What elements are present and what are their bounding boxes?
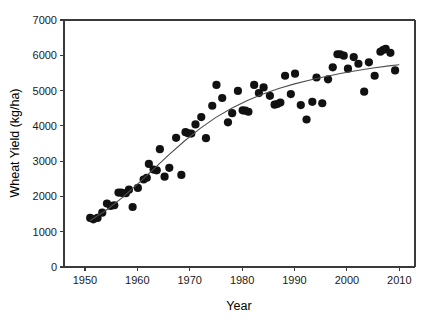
x-tick-label: 1980 <box>230 274 254 286</box>
data-point <box>281 72 289 80</box>
data-point <box>260 83 268 91</box>
trend-line <box>90 65 399 221</box>
y-tick-label: 0 <box>51 261 57 273</box>
data-point <box>276 98 284 106</box>
data-point <box>250 81 258 89</box>
wheat-yield-scatter-chart: 01000200030004000500060007000 1950196019… <box>0 0 432 322</box>
x-tick-label: 1990 <box>282 274 306 286</box>
data-point <box>156 145 164 153</box>
y-tick-label: 5000 <box>33 85 57 97</box>
data-point <box>165 164 173 172</box>
x-tick-label: 1970 <box>177 274 201 286</box>
data-point <box>391 66 399 74</box>
data-point <box>160 173 168 181</box>
y-tick-label: 7000 <box>33 14 57 26</box>
y-tick-label: 6000 <box>33 49 57 61</box>
y-axis-title: Wheat Yield (kg/ha) <box>8 88 22 197</box>
data-point <box>360 88 368 96</box>
data-point <box>386 49 394 57</box>
data-point <box>302 115 310 123</box>
x-axis-ticks: 1950196019701980199020002010 <box>73 267 412 286</box>
data-point <box>134 184 142 192</box>
data-point <box>172 134 180 142</box>
data-point <box>244 108 252 116</box>
data-point <box>218 94 226 102</box>
data-point <box>340 52 348 60</box>
y-tick-label: 2000 <box>33 190 57 202</box>
data-point <box>212 81 220 89</box>
y-tick-label: 4000 <box>33 120 57 132</box>
y-axis-ticks: 01000200030004000500060007000 <box>33 14 64 273</box>
data-point <box>191 120 199 128</box>
x-tick-label: 2010 <box>387 274 411 286</box>
data-point <box>197 113 205 121</box>
x-tick-label: 1950 <box>73 274 97 286</box>
data-point <box>354 60 362 68</box>
data-point <box>329 63 337 71</box>
data-point <box>153 166 161 174</box>
x-tick-label: 2000 <box>335 274 359 286</box>
chart-canvas: 01000200030004000500060007000 1950196019… <box>0 0 432 322</box>
data-point <box>129 203 137 211</box>
data-point <box>202 134 210 142</box>
data-point <box>224 118 232 126</box>
y-tick-label: 1000 <box>33 226 57 238</box>
data-point <box>297 101 305 109</box>
plot-frame <box>64 20 415 267</box>
y-tick-label: 3000 <box>33 155 57 167</box>
data-point <box>291 70 299 78</box>
data-point <box>287 90 295 98</box>
data-point <box>208 102 216 110</box>
data-point <box>365 58 373 66</box>
x-tick-label: 1960 <box>125 274 149 286</box>
data-point <box>308 98 316 106</box>
data-point <box>371 72 379 80</box>
data-point <box>234 87 242 95</box>
x-axis-title: Year <box>226 299 251 313</box>
data-point <box>177 171 185 179</box>
data-point <box>228 109 236 117</box>
data-point <box>318 99 326 107</box>
data-point <box>350 53 358 61</box>
